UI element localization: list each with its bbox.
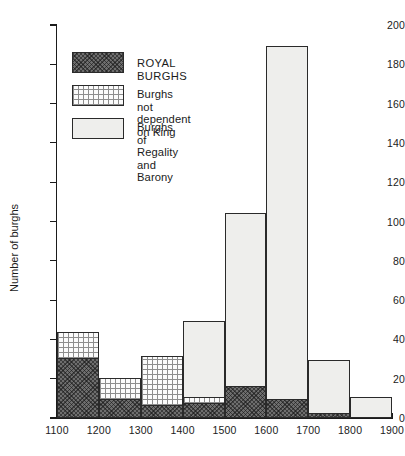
bars-area (57, 25, 392, 418)
y-tick-mark (50, 182, 56, 183)
bar-group (225, 25, 267, 418)
x-tick-label: 1800 (338, 424, 362, 436)
x-tick-label: 1900 (380, 424, 404, 436)
bar-segment-not_dependent (141, 356, 183, 406)
bar-group (57, 25, 99, 418)
y-tick-mark (50, 24, 56, 25)
bar-segment-regality_barony (225, 213, 267, 387)
bar-segment-not_dependent (57, 332, 99, 359)
y-axis-title: Number of burghs (8, 204, 20, 292)
y-tick-mark (50, 417, 56, 418)
x-tick-label: 1500 (212, 424, 236, 436)
legend-item: ROYAL BURGHS (72, 52, 187, 82)
burghs-histogram-chart: Number of burghs 02040608010012014016018… (0, 0, 405, 456)
bar-group (141, 25, 183, 418)
y-tick-mark (50, 378, 56, 379)
bar-segment-royal (141, 405, 183, 418)
legend-item: Burghs of Regality and Barony (72, 118, 178, 184)
legend-swatch-grid (72, 85, 124, 106)
x-tick-label: 1100 (45, 424, 68, 436)
x-tick-label: 1400 (171, 424, 195, 436)
x-tick-label: 1700 (296, 424, 320, 436)
bar-group (99, 25, 141, 418)
y-tick-mark (50, 221, 56, 222)
x-tick-label: 1600 (254, 424, 278, 436)
x-tick-label: 1300 (129, 424, 153, 436)
legend-swatch-dark-crosshatch (72, 52, 124, 73)
y-tick-mark (50, 142, 56, 143)
legend-label: ROYAL BURGHS (137, 52, 187, 82)
bar-segment-royal (266, 399, 308, 418)
y-tick-mark (50, 64, 56, 65)
x-tick-label: 1200 (87, 424, 111, 436)
bar-segment-regality_barony (183, 321, 225, 399)
bar-segment-regality_barony (266, 46, 308, 401)
bar-group (266, 25, 308, 418)
bar-group (308, 25, 350, 418)
bar-segment-royal (183, 403, 225, 418)
bar-segment-not_dependent (99, 378, 141, 401)
bar-segment-royal (99, 399, 141, 418)
y-tick-mark (50, 103, 56, 104)
bar-segment-regality_barony (308, 360, 350, 414)
bar-group (350, 25, 392, 418)
bar-segment-royal (225, 385, 267, 418)
y-tick-mark (50, 260, 56, 261)
legend-swatch-light (72, 118, 124, 139)
bar-segment-regality_barony (350, 397, 392, 418)
bar-group (183, 25, 225, 418)
bar-segment-royal (57, 358, 99, 418)
y-tick-mark (50, 300, 56, 301)
legend-label: Burghs of Regality and Barony (137, 118, 178, 184)
y-tick-mark (50, 339, 56, 340)
